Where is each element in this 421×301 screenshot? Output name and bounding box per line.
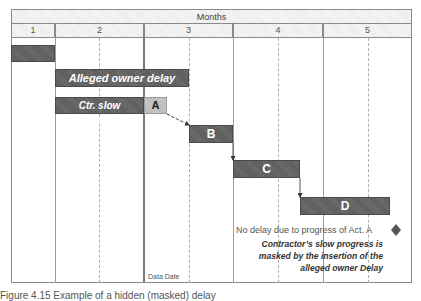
- milestone-diamond-icon: [391, 224, 401, 236]
- explanation-note: Contractor’s slow progress is masked by …: [203, 238, 383, 274]
- explanation-line: masked by the insertion of the: [203, 250, 383, 262]
- explanation-line: Contractor’s slow progress is: [203, 238, 383, 250]
- milestone-note: No delay due to progress of Act. A: [236, 225, 372, 235]
- data-date-label: Data Date: [148, 273, 180, 280]
- figure-caption: Figure 4.15 Example of a hidden (masked)…: [0, 290, 216, 301]
- explanation-line: alleged owner Delay: [203, 262, 383, 274]
